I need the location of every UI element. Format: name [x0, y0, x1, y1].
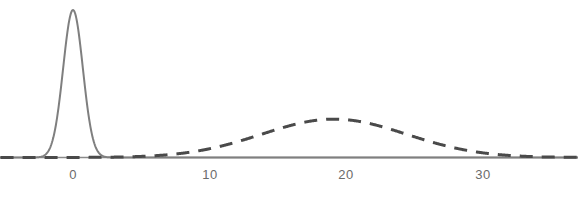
plot-area [0, 0, 578, 199]
series-narrow-distribution-line [1, 10, 578, 157]
x-tick-label-20: 20 [338, 167, 353, 182]
x-tick-label-30: 30 [475, 167, 490, 182]
series-broad-distribution-line [1, 119, 578, 157]
x-tick-label-10: 10 [202, 167, 217, 182]
chart-figure: 0 10 20 30 [0, 0, 578, 199]
x-tick-label-0: 0 [69, 167, 77, 182]
